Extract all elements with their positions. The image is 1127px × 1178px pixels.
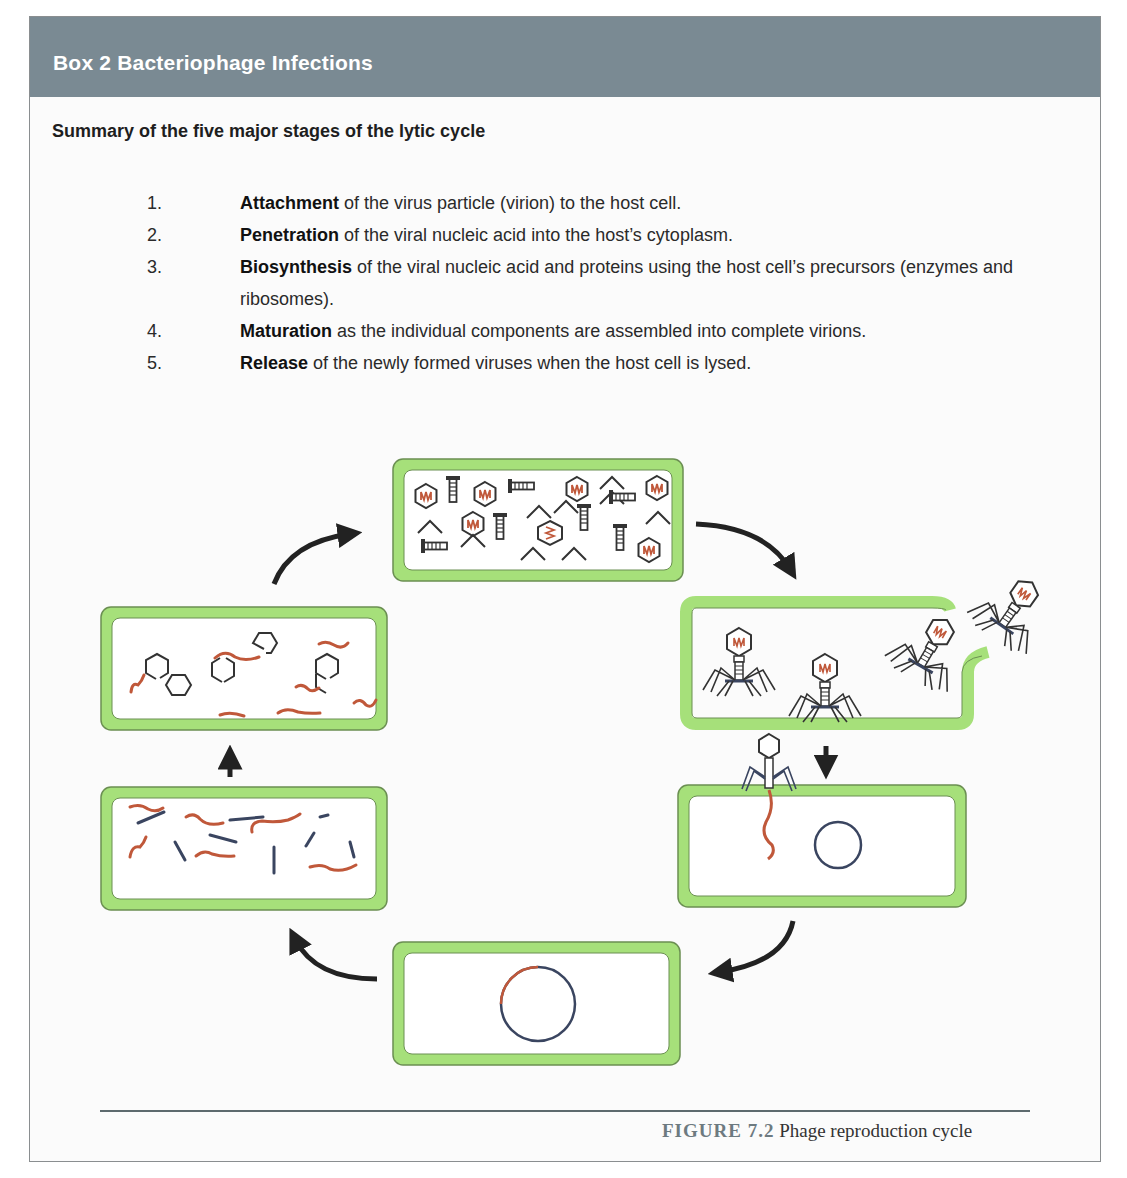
cell-penetration: [678, 734, 966, 907]
figure-caption: FIGURE 7.2 Phage reproduction cycle: [662, 1120, 972, 1142]
info-box: Box 2 Bacteriophage Infections Summary o…: [29, 16, 1101, 1162]
arrow-integration-to-biosynthesis: [295, 939, 377, 979]
figure-caption-text: Phage reproduction cycle: [779, 1120, 972, 1141]
cell-maturation: [393, 459, 683, 581]
arrow-penetration-to-integration: [720, 921, 793, 972]
figure-rule: [100, 1110, 1030, 1112]
arrow-assembly-to-maturation: [274, 534, 350, 584]
cell-assembly: [101, 607, 387, 730]
cell-biosynthesis: [101, 787, 387, 910]
cell-integration: [393, 942, 680, 1065]
cell-release: [686, 562, 1062, 724]
figure-label: FIGURE 7.2: [662, 1120, 774, 1141]
arrow-maturation-to-release: [696, 524, 790, 569]
lytic-cycle-diagram: [30, 17, 1102, 1163]
